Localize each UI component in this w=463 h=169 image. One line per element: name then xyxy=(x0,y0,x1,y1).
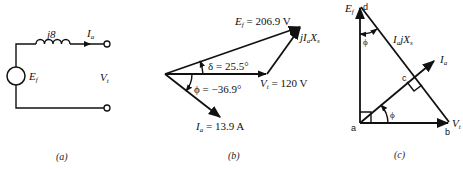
terminal-voltage-label: Vt xyxy=(100,71,110,85)
drop-phasor xyxy=(267,28,300,74)
vt-label-c: Vt xyxy=(452,117,462,131)
phi-arc-bottom xyxy=(381,105,388,123)
ia-phasor xyxy=(165,74,220,117)
terminal-top xyxy=(104,41,110,47)
ia-label-c: Ia xyxy=(439,53,448,67)
point-c: c xyxy=(402,73,407,83)
current-label: Ia xyxy=(86,27,95,41)
point-b: b xyxy=(445,127,450,137)
wire-bottom xyxy=(16,85,104,108)
phi-label: ϕ = −36.9° xyxy=(194,83,241,95)
terminal-bottom xyxy=(104,105,110,111)
phi-arc xyxy=(186,74,192,91)
ef-label: Ef = 206.9 V xyxy=(234,15,291,29)
drop-label: jIaXs xyxy=(298,31,320,45)
delta-label: δ = 25.5° xyxy=(208,60,249,72)
caption-c: (c) xyxy=(394,149,406,161)
phasor-figure: j8 Ia Ef Vt (a) Ef = 206.9 V δ = 25.5° V… xyxy=(0,0,463,169)
drop-label-c: IajXs xyxy=(392,33,413,47)
inductor-label: j8 xyxy=(45,28,56,40)
circuit-diagram: j8 Ia Ef Vt (a) xyxy=(7,27,110,163)
caption-b: (b) xyxy=(228,150,240,162)
ef-label-c: Ef xyxy=(344,2,355,16)
phi-label-top: ϕ xyxy=(363,37,368,47)
caption-a: (a) xyxy=(56,151,68,163)
current-arrow-icon xyxy=(84,41,91,47)
phasor-diagram-b: Ef = 206.9 V δ = 25.5° Vt = 120 V ϕ = −3… xyxy=(165,15,320,162)
phasor-diagram-c: Ef d a b c IajXs Ia Vt ϕ ϕ (c) xyxy=(344,2,462,161)
voltage-source-icon xyxy=(7,67,25,85)
hypotenuse-drop xyxy=(361,7,449,122)
vt-label: Vt = 120 V xyxy=(260,77,307,91)
point-d: d xyxy=(363,2,368,12)
wire-left-top xyxy=(16,44,36,67)
source-label: Ef xyxy=(28,70,39,84)
phi-label-bottom: ϕ xyxy=(390,110,395,120)
phi-arc-top xyxy=(360,29,377,34)
point-a: a xyxy=(351,123,356,133)
inductor-coil xyxy=(36,40,70,45)
ia-label: Ia = 13.9 A xyxy=(195,120,244,134)
delta-arc xyxy=(200,61,203,74)
